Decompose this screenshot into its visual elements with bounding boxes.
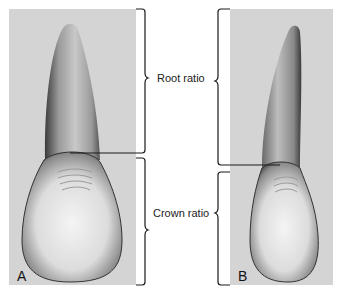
tooth-a-crown <box>22 152 122 282</box>
tooth-b <box>250 26 318 282</box>
bracket-crown-a <box>136 158 148 285</box>
tooth-b-crown <box>250 162 318 282</box>
root-ratio-label: Root ratio <box>157 72 205 84</box>
panel-a-label: A <box>17 268 26 284</box>
tooth-b-root <box>262 26 301 168</box>
tooth-a-root <box>45 24 100 160</box>
bracket-crown-b <box>215 172 230 285</box>
crown-ratio-label: Crown ratio <box>153 207 209 219</box>
tooth-diagram <box>0 0 344 294</box>
panel-b-label: B <box>238 268 247 284</box>
